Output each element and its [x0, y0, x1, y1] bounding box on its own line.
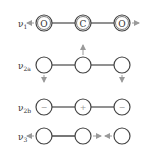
minus-sign: −: [41, 103, 48, 112]
co2-vibrational-modes-diagram: ν1 O C O ν2a ν2b − + −: [0, 0, 145, 153]
atom-label: O: [118, 19, 125, 29]
atom-circle: [75, 57, 91, 73]
atom-label: C: [80, 19, 87, 29]
mode-nu2a: ν2a: [18, 45, 130, 82]
atom-label: O: [40, 19, 47, 29]
atom-circle: [36, 128, 52, 144]
atom-circle: [114, 57, 130, 73]
mode-nu1: ν1 O C O: [18, 15, 139, 31]
mode-label: ν2b: [18, 103, 31, 114]
atom-circle: [114, 128, 130, 144]
mode-nu3: ν3: [18, 128, 130, 144]
atom-circle: [36, 57, 52, 73]
mode-nu2b: ν2b − + −: [18, 99, 130, 115]
minus-sign: −: [119, 103, 126, 112]
mode-label: ν1: [18, 19, 27, 30]
mode-label: ν2a: [18, 61, 31, 72]
atom-circle: [75, 128, 91, 144]
mode-label: ν3: [18, 132, 27, 143]
plus-sign: +: [80, 103, 87, 112]
